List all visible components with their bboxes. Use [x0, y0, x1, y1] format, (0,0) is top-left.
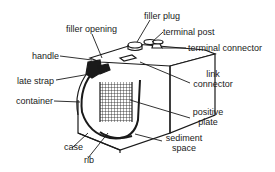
label-filler-plug: filler plug [144, 11, 180, 21]
label-rib: rib [84, 155, 94, 165]
label-positive-plate: positive plate [190, 107, 226, 127]
label-terminal-connector: terminal connector [188, 43, 262, 53]
battery-illustration [0, 0, 275, 172]
label-container: container [16, 96, 53, 106]
label-handle: handle [32, 51, 59, 61]
label-plate-strap: late strap [17, 76, 54, 86]
label-link-connector: link connector [193, 69, 233, 89]
label-terminal-post: terminal post [163, 27, 215, 37]
label-filler-opening: filler opening [66, 24, 117, 34]
label-sediment-space: sediment space [164, 133, 204, 153]
label-case: case [64, 142, 83, 152]
battery-diagram: filler opening filler plug terminal post… [0, 0, 275, 172]
